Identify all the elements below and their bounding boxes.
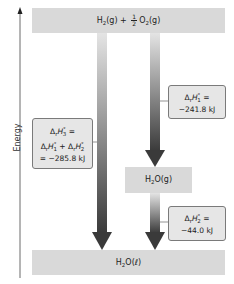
energy-axis-arrowhead-icon (18, 7, 23, 14)
dh2-symbol: ΔrH°2 = (185, 211, 210, 226)
dh1-value: −241.8 kJ (179, 105, 216, 115)
energy-axis-label: Energy (13, 123, 22, 153)
arrow-dh3 (92, 33, 112, 250)
water-liquid-label: H2O(ℓ) (116, 258, 141, 268)
dh1-symbol: ΔrH°1 = (185, 90, 210, 105)
dh3-symbol: ΔrH°3 = (50, 124, 75, 139)
fraction-one-half: 12 (131, 14, 137, 27)
arrow-dh2 (145, 193, 165, 250)
note-dh2: ΔrH°2 = −44.0 kJ (168, 206, 226, 241)
note-dh1: ΔrH°1 = −241.8 kJ (168, 85, 226, 119)
dh3-value: = −285.8 kJ (40, 154, 85, 164)
arrow-dh1 (145, 33, 165, 167)
level-water-gas: H2O(g) (125, 167, 192, 193)
dh3-sum: ΔrH°1 + ΔrH°2 (41, 139, 85, 154)
reactants-label: H2(g) + 12O2(g) (97, 14, 161, 27)
level-reactants: H2(g) + 12O2(g) (32, 8, 225, 33)
level-water-liquid: H2O(ℓ) (32, 250, 225, 275)
note-dh3: ΔrH°3 = ΔrH°1 + ΔrH°2 = −285.8 kJ (32, 118, 93, 169)
water-gas-label: H2O(g) (145, 175, 172, 185)
dh2-value: −44.0 kJ (181, 226, 213, 236)
